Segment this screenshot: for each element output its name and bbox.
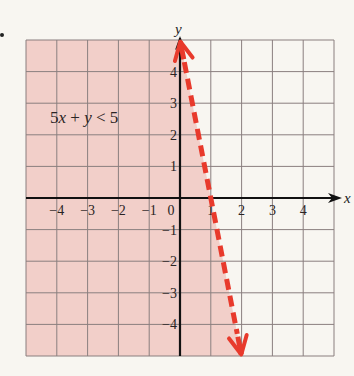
x-tick-label: −1 xyxy=(142,203,157,218)
y-axis-label: y xyxy=(173,21,182,37)
y-tick-label: −3 xyxy=(162,286,177,301)
x-axis-label: x xyxy=(343,190,351,206)
x-tick-label: −4 xyxy=(49,203,64,218)
inequality-graph: xy −4−3−2−1012344321−1−2−3−4 5x + y < 5 xyxy=(0,0,354,376)
line-arrow-down-icon-shaft xyxy=(238,337,241,355)
x-tick-label: 3 xyxy=(269,203,276,218)
y-tick-label: 4 xyxy=(170,65,177,80)
y-tick-label: −1 xyxy=(162,223,177,238)
x-tick-label: −3 xyxy=(80,203,95,218)
y-tick-label: 2 xyxy=(170,128,177,143)
x-tick-label: 0 xyxy=(168,203,175,218)
x-tick-label: −2 xyxy=(111,203,126,218)
line-arrow-up-icon-shaft xyxy=(180,42,183,60)
x-tick-label: 2 xyxy=(238,203,245,218)
y-tick-label: −4 xyxy=(162,317,177,332)
inequality-text: 5x + y < 5 xyxy=(50,108,118,127)
y-tick-label: −2 xyxy=(162,254,177,269)
x-tick-label: 4 xyxy=(300,203,307,218)
y-tick-label: 1 xyxy=(170,159,177,174)
inequality-label: 5x + y < 5 xyxy=(50,108,118,127)
y-tick-label: 3 xyxy=(170,96,177,111)
